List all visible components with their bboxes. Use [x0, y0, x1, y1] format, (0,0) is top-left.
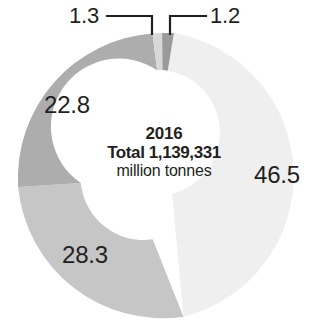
donut-chart-figure: 46.5 22.8 28.3 1.3 1.2 2016 Total 1,139,…: [0, 0, 315, 330]
center-total-text: Total 1,139,331: [97, 143, 231, 162]
slice-label-46-5: 46.5: [254, 161, 300, 189]
callout-label-1-2: 1.2: [210, 3, 240, 29]
center-year-text: 2016: [97, 124, 231, 143]
callout-label-1-3: 1.3: [69, 3, 99, 29]
center-unit-text: million tonnes: [97, 162, 231, 180]
leader-line-1-2: [170, 16, 206, 34]
slice-label-28-3: 28.3: [62, 241, 108, 269]
leader-line-1-3: [107, 16, 152, 34]
slice-label-22-8: 22.8: [44, 91, 90, 119]
donut-center-annotation: 2016 Total 1,139,331 million tonnes: [97, 124, 231, 180]
